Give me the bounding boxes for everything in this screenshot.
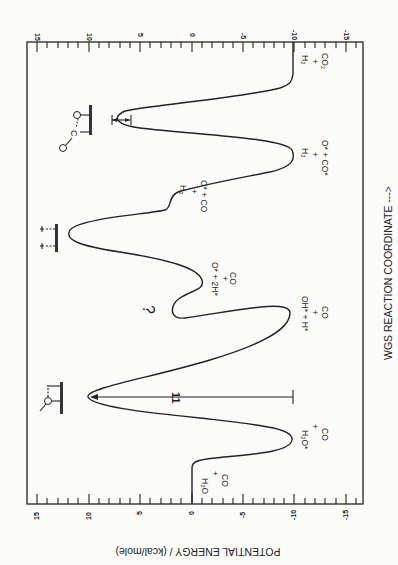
carbon-atom: C	[69, 130, 79, 137]
energy-profile-chart: 15 10 5 0 -5 -10 -15 15 10 5 0 -5 -10 -1…	[0, 0, 398, 565]
species-label: +	[310, 152, 320, 157]
species-labels: H₂O + CO H₂O* + CO OH* + H* + CO O* + 2H…	[178, 53, 330, 494]
tick-label: -10	[290, 510, 297, 520]
tick-label: -5	[239, 512, 246, 518]
energy-curve	[69, 42, 294, 503]
species-label: H₂	[178, 185, 188, 194]
tick-label: 0	[189, 33, 196, 37]
surface-h-h-icon	[40, 224, 58, 252]
species-label: +	[189, 189, 199, 194]
tick-label: 10	[85, 512, 92, 520]
barrier-arrow: 11	[90, 390, 293, 404]
x-axis-title: WGS REACTION COORDINATE --->	[382, 186, 394, 360]
species-label: CO	[228, 272, 238, 285]
tick-label: -5	[240, 33, 247, 39]
top-axis-ticks	[37, 42, 356, 52]
species-label: H₂O*	[300, 430, 310, 450]
species-label: H₂	[300, 148, 310, 157]
species-label: CO	[320, 306, 330, 319]
tick-label: 5	[136, 511, 143, 515]
top-tick-labels: 15 10 5 0 -5 -10 -15	[34, 30, 350, 41]
species-label: +	[310, 424, 320, 429]
tick-label: 0	[188, 511, 195, 515]
surface-h2o-icon	[40, 382, 63, 414]
tick-label: 15	[34, 33, 41, 41]
species-label: +	[310, 59, 320, 64]
tick-label: -15	[343, 30, 350, 40]
species-label: CO	[320, 428, 330, 441]
species-label: +	[210, 471, 220, 476]
species-label: O* + 2H*	[210, 262, 220, 296]
species-label: CO	[220, 474, 230, 487]
unknown-barrier-label: ?	[140, 305, 157, 314]
tick-label: 15	[33, 512, 40, 520]
species-label: +	[310, 310, 320, 315]
tick-label: -10	[291, 30, 298, 40]
bottom-axis-ticks	[37, 494, 356, 504]
barrier-value-label: 11	[170, 392, 182, 404]
tick-label: 5	[137, 33, 144, 37]
surface-oco-icon: C	[60, 105, 93, 152]
species-label: O* + CO*	[320, 140, 330, 176]
tick-label: 10	[86, 33, 93, 41]
species-label: O* + CO	[199, 180, 209, 213]
species-label: OH* + H*	[300, 296, 310, 332]
species-label: H₂O	[200, 478, 210, 494]
y-axis-title: POTENTIAL ENERGY / (kcal/mole)	[115, 546, 280, 558]
species-label: H₂	[300, 55, 310, 64]
tick-label: -15	[342, 510, 349, 520]
bottom-tick-labels: 15 10 5 0 -5 -10 -15	[33, 510, 349, 520]
species-label: CO₂	[320, 53, 330, 69]
